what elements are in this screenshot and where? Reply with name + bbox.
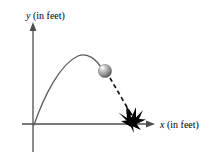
y-axis-arrow-icon [30, 22, 37, 31]
impact-starburst [119, 104, 147, 133]
y-axis-unit: (in feet) [33, 10, 65, 22]
projectile-trajectory-figure: y (in feet) x (in feet) [0, 0, 210, 162]
projectile-ball [98, 64, 111, 77]
x-axis-arrow-icon [146, 121, 155, 128]
y-axis-label: y (in feet) [25, 10, 65, 22]
ball-highlight [100, 66, 104, 69]
x-axis-label: x (in feet) [159, 119, 199, 131]
x-axis-unit: (in feet) [167, 119, 199, 131]
ascending-parabola-path [34, 55, 102, 125]
figure-canvas: y (in feet) x (in feet) [0, 0, 210, 162]
